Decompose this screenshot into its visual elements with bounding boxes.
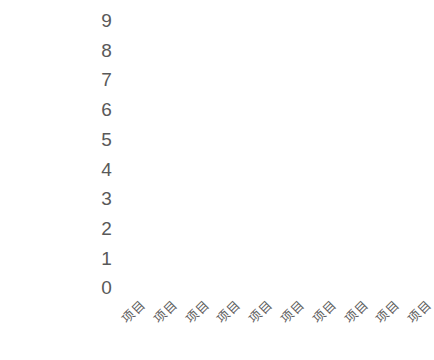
y-axis-tick-label: 2 bbox=[12, 219, 112, 238]
x-axis-tick-label: 项目 bbox=[184, 298, 212, 326]
x-axis-tick-label: 项目 bbox=[215, 298, 243, 326]
x-axis-tick-label: 项目 bbox=[247, 298, 275, 326]
y-axis-tick-label: 8 bbox=[12, 41, 112, 60]
x-axis-tick-label: 项目 bbox=[152, 298, 180, 326]
x-axis-tick-label: 项目 bbox=[343, 298, 371, 326]
plot-area bbox=[112, 6, 410, 294]
y-axis-tick-label: 3 bbox=[12, 189, 112, 208]
y-axis-tick-label: 0 bbox=[12, 278, 112, 297]
y-axis-tick-label: 9 bbox=[12, 11, 112, 30]
y-axis-tick-label: 1 bbox=[12, 249, 112, 268]
y-axis-tick-label: 5 bbox=[12, 130, 112, 149]
x-axis-tick-label: 项目 bbox=[311, 298, 339, 326]
x-axis-tick-label: 项目 bbox=[374, 298, 402, 326]
x-axis: 项目项目项目项目项目项目项目项目项目项目 bbox=[0, 298, 414, 360]
x-axis-tick-label: 项目 bbox=[279, 298, 307, 326]
x-axis-tick-label: 项目 bbox=[120, 298, 148, 326]
x-axis-tick-label: 项目 bbox=[406, 298, 434, 326]
y-axis: 9876543210 bbox=[0, 0, 112, 300]
y-axis-tick-label: 6 bbox=[12, 100, 112, 119]
y-axis-tick-label: 7 bbox=[12, 70, 112, 89]
y-axis-tick-label: 4 bbox=[12, 160, 112, 179]
